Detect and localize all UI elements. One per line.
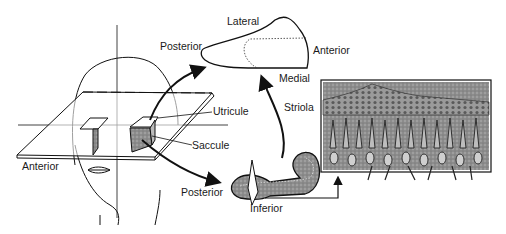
label-posterior-utricle: Posterior xyxy=(160,41,202,52)
horizontal-plane xyxy=(17,92,214,160)
macula-histology xyxy=(321,80,491,180)
arrow-to-utricle-striola xyxy=(262,78,284,158)
label-striola: Striola xyxy=(284,102,314,113)
label-utricule: Utricule xyxy=(213,106,249,117)
saccule-macula xyxy=(231,152,319,205)
label-posterior-saccule: Posterior xyxy=(181,187,223,198)
label-saccule: Saccule xyxy=(192,140,229,151)
label-anterior-plane: Anterior xyxy=(22,161,59,172)
label-lateral: Lateral xyxy=(227,16,259,27)
label-inferior: Inferior xyxy=(250,203,283,214)
diagram-canvas xyxy=(0,0,506,234)
label-anterior-utricle: Anterior xyxy=(313,45,350,56)
label-medial: Medial xyxy=(279,73,310,84)
